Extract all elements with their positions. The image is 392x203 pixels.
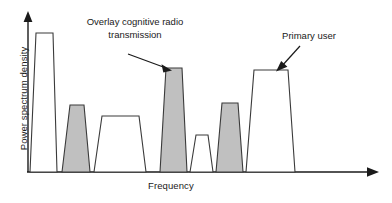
annotation-arrows: [128, 46, 300, 73]
overlay-annotation-arrow: [128, 54, 172, 73]
band-4-trapezoid: [160, 68, 187, 172]
spectrum-diagram-figure: Power spectrum density Frequency Overlay…: [0, 0, 392, 203]
y-axis-arrowhead: [24, 11, 33, 22]
annotation-primary-user: Primary user: [262, 30, 356, 43]
annotation-overlay-cognitive-radio-transmission: Overlay cognitive radio transmission: [72, 16, 198, 41]
band-3-trapezoid: [94, 116, 146, 172]
spectral-masks: [30, 33, 295, 172]
x-axis-arrowhead: [367, 167, 379, 177]
band-1-trapezoid: [30, 33, 57, 172]
band-7-trapezoid: [246, 70, 295, 172]
y-axis-label: Power spectrum density: [18, 29, 29, 169]
primary-user-annotation-arrow: [276, 46, 300, 72]
band-5-trapezoid: [190, 135, 213, 172]
band-6-trapezoid: [216, 103, 243, 172]
band-2-trapezoid: [62, 105, 90, 172]
x-axis-label: Frequency: [148, 180, 194, 191]
